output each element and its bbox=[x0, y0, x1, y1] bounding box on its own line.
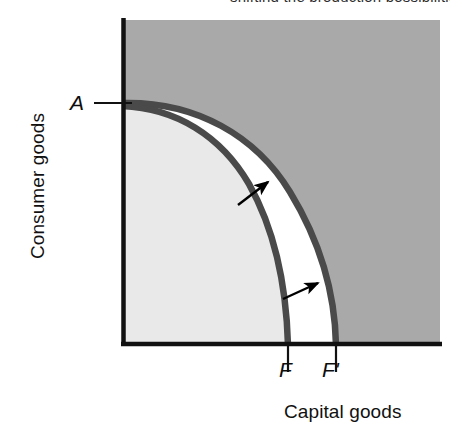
point-label-f: F bbox=[279, 358, 292, 382]
y-axis-label: Consumer goods bbox=[27, 96, 49, 276]
point-label-f-prime: F' bbox=[322, 358, 339, 382]
x-axis-label: Capital goods bbox=[284, 401, 402, 423]
point-label-a: A bbox=[70, 91, 84, 115]
ppf-figure: shifting the production possibilities cu… bbox=[0, 0, 470, 442]
ppf-plot bbox=[0, 0, 470, 442]
